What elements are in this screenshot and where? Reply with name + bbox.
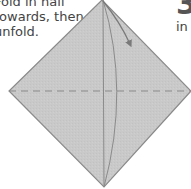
paper-square xyxy=(9,0,191,187)
origami-diagram xyxy=(0,0,191,189)
